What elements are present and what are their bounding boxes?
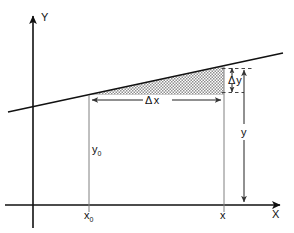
x-axis-label: X [272,208,280,220]
x0-label-subscript: 0 [90,216,94,223]
y-label: y [241,126,247,138]
delta-x-variable: x [154,94,160,106]
x0-label: x0 [84,209,94,223]
y0-label-subscript: 0 [98,150,102,157]
math-diagram-figure: Y X x0 x y0 y Δx Δy [0,0,294,233]
delta-y-label: Δy [228,74,242,86]
y0-label: y0 [92,143,102,157]
diagram-canvas: Y X x0 x y0 y Δx Δy [0,0,294,233]
delta-y-variable: y [236,74,242,86]
x-label: x [220,209,226,221]
delta-x-symbol: Δ [145,94,153,106]
delta-x-label: Δx [145,94,160,106]
delta-y-symbol: Δ [228,74,236,86]
y-axis-label: Y [41,11,49,23]
